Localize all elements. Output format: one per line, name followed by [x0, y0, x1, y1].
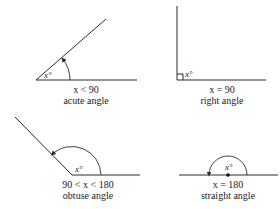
- straight-angle-figure: x° x = 180 straight angle: [179, 156, 278, 201]
- straight-name: straight angle: [201, 190, 256, 201]
- acute-angle-label: x°: [43, 70, 52, 80]
- obtuse-angle-figure: x° 90 < x < 180 obtuse angle: [15, 117, 140, 201]
- straight-condition: x = 180: [213, 179, 244, 190]
- obtuse-rotated-ray: [15, 117, 72, 175]
- right-name: right angle: [200, 95, 244, 106]
- right-angle-square-icon: [177, 74, 183, 80]
- right-angle-label: x°: [184, 69, 193, 79]
- right-angle-figure: x° x = 90 right angle: [177, 6, 266, 106]
- acute-angle-arc: [63, 59, 71, 80]
- obtuse-name: obtuse angle: [63, 190, 114, 201]
- straight-vertex-dot-icon: [226, 173, 230, 177]
- right-condition: x = 90: [209, 84, 235, 95]
- angle-types-diagram: x° x < 90 acute angle x° x = 90 right an…: [0, 0, 280, 209]
- acute-condition: x < 90: [73, 84, 99, 95]
- acute-name: acute angle: [63, 95, 109, 106]
- obtuse-angle-label: x°: [74, 164, 83, 174]
- acute-angle-figure: x° x < 90 acute angle: [36, 19, 137, 106]
- straight-angle-label: x°: [224, 162, 233, 172]
- obtuse-condition: 90 < x < 180: [62, 179, 113, 190]
